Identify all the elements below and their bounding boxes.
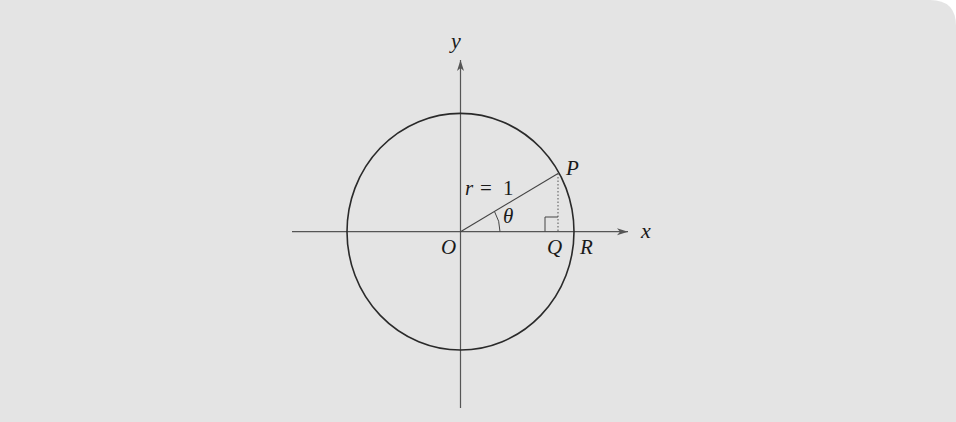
point-p-label: P — [565, 156, 579, 180]
y-axis-label: y — [449, 28, 461, 53]
radius-var: r — [465, 176, 474, 200]
x-axis-label: x — [640, 218, 651, 243]
background-panel — [0, 0, 956, 422]
origin-label: O — [441, 235, 456, 259]
unit-circle-diagram: y x O Q R P r = 1 θ — [0, 0, 956, 422]
point-q-label: Q — [547, 235, 562, 259]
radius-label: r = 1 — [465, 176, 514, 200]
diagram-canvas: y x O Q R P r = 1 θ — [0, 0, 956, 422]
radius-value: 1 — [503, 176, 514, 200]
radius-equals: = — [480, 176, 492, 200]
angle-theta-label: θ — [503, 204, 513, 228]
point-r-label: R — [579, 235, 593, 259]
